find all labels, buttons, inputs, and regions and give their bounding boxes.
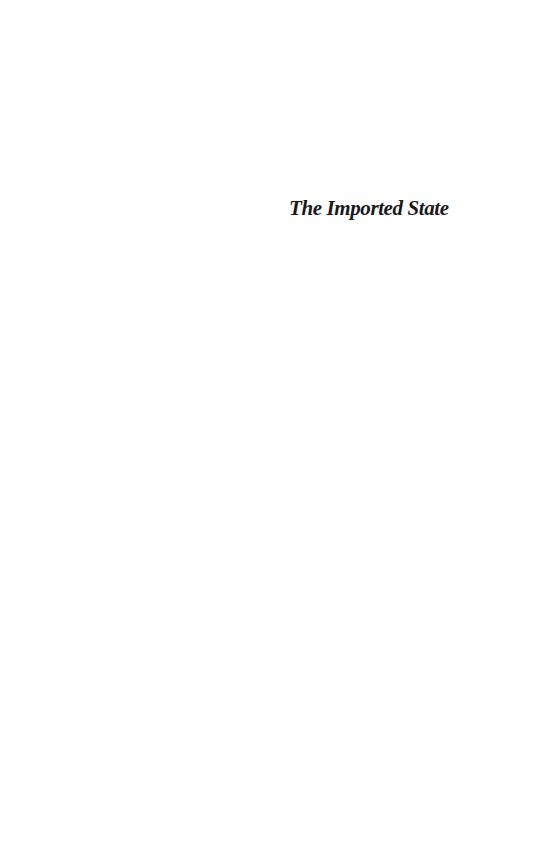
half-title: The Imported State (289, 193, 449, 223)
book-page: The Imported State (0, 0, 533, 859)
